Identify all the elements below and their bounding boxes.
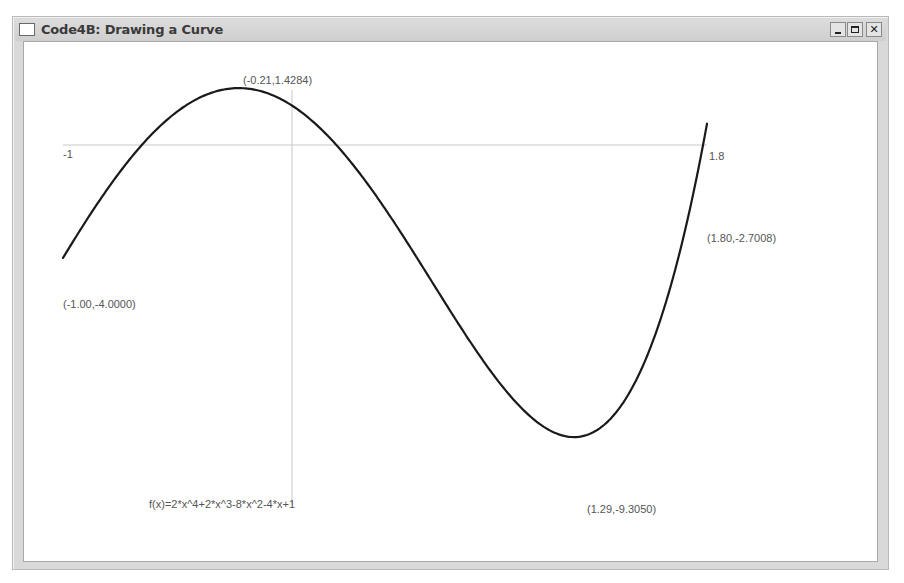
curve-plot: -1 1.8 (-0.21,1.4284) (-1.00,-4.0000) (1… bbox=[0, 0, 904, 583]
function-curve bbox=[63, 88, 707, 437]
local-max-label: (-0.21,1.4284) bbox=[243, 74, 312, 86]
x-max-label: 1.8 bbox=[709, 150, 724, 162]
x-min-label: -1 bbox=[63, 148, 73, 160]
end-point-label: (1.80,-2.7008) bbox=[707, 232, 776, 244]
function-label: f(x)=2*x^4+2*x^3-8*x^2-4*x+1 bbox=[149, 498, 295, 510]
start-point-label: (-1.00,-4.0000) bbox=[63, 298, 136, 310]
local-min-label: (1.29,-9.3050) bbox=[587, 503, 656, 515]
